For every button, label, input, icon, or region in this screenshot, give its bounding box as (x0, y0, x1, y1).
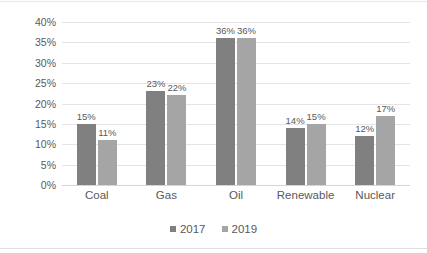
y-axis-tick-label: 35% (0, 37, 56, 47)
bar-value-label: 11% (98, 128, 116, 138)
y-axis-tick-label: 5% (0, 160, 56, 170)
bar-oil-2019[interactable]: 36% (237, 38, 256, 185)
bar-group: 15%11% (62, 22, 132, 185)
legend-label: 2017 (180, 223, 206, 235)
legend-label: 2019 (232, 223, 258, 235)
bar-renewable-2019[interactable]: 15% (307, 124, 326, 185)
x-axis-tick-label: Gas (132, 188, 202, 202)
x-axis-tick-label: Coal (62, 188, 132, 202)
bar-group-bars: 14%15% (271, 22, 341, 185)
chart-bottom-border (0, 248, 427, 249)
bar-coal-2017[interactable]: 15% (77, 124, 96, 185)
bar-oil-2017[interactable]: 36% (216, 38, 235, 185)
plot-area: 15%11%23%22%36%36%14%15%12%17% (62, 22, 410, 185)
bar-group: 23%22% (132, 22, 202, 185)
chart-top-border (0, 1, 427, 2)
bar-group-bars: 23%22% (132, 22, 202, 185)
bar-value-label: 15% (307, 112, 326, 122)
bar-group-bars: 12%17% (340, 22, 410, 185)
bar-nuclear-2019[interactable]: 17% (376, 116, 395, 185)
bar-value-label: 14% (286, 116, 305, 126)
bar-value-label: 36% (237, 26, 256, 36)
bar-group: 12%17% (340, 22, 410, 185)
bar-value-label: 17% (376, 104, 395, 114)
bar-group-bars: 15%11% (62, 22, 132, 185)
bar-chart: 0%5%10%15%20%25%30%35%40% 15%11%23%22%36… (0, 0, 427, 253)
legend-item-2017[interactable]: 2017 (170, 223, 206, 235)
y-axis-tick-label: 40% (0, 17, 56, 27)
bar-gas-2017[interactable]: 23% (146, 91, 165, 185)
y-axis-tick-label: 15% (0, 119, 56, 129)
x-axis-tick-label: Nuclear (340, 188, 410, 202)
y-axis-tick-label: 25% (0, 78, 56, 88)
bar-coal-2019[interactable]: 11% (98, 140, 117, 185)
axis-baseline (62, 185, 410, 186)
bar-gas-2019[interactable]: 22% (167, 95, 186, 185)
x-axis: CoalGasOilRenewableNuclear (62, 188, 410, 206)
legend-swatch-icon (170, 226, 176, 232)
bar-value-label: 15% (77, 112, 96, 122)
y-axis-tick-label: 30% (0, 58, 56, 68)
chart-legend: 20172019 (0, 221, 427, 237)
bar-group: 36%36% (201, 22, 271, 185)
x-axis-tick-label: Oil (201, 188, 271, 202)
bar-group: 14%15% (271, 22, 341, 185)
y-axis-tick-label: 0% (0, 180, 56, 190)
y-axis-tick-label: 20% (0, 99, 56, 109)
bar-nuclear-2017[interactable]: 12% (355, 136, 374, 185)
y-axis-tick-label: 10% (0, 139, 56, 149)
bar-value-label: 22% (167, 83, 186, 93)
legend-swatch-icon (222, 226, 228, 232)
bar-renewable-2017[interactable]: 14% (286, 128, 305, 185)
bar-value-label: 12% (355, 124, 374, 134)
bar-group-bars: 36%36% (201, 22, 271, 185)
y-axis: 0%5%10%15%20%25%30%35%40% (0, 22, 56, 185)
legend-item-2019[interactable]: 2019 (222, 223, 258, 235)
x-axis-tick-label: Renewable (271, 188, 341, 202)
bar-value-label: 23% (146, 79, 165, 89)
bar-value-label: 36% (216, 26, 235, 36)
